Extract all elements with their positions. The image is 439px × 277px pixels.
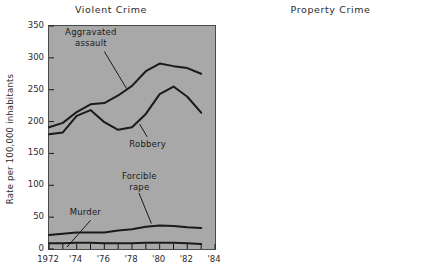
series-label-robbery: Robbery bbox=[129, 139, 166, 150]
y-tick-label: 150 bbox=[4, 147, 44, 157]
figure-root: Violent Crime Rate per 100,000 inhabitan… bbox=[0, 0, 439, 277]
x-tick-label: '76 bbox=[97, 254, 110, 264]
chart-panel-property-crime: Property Crime Rate per 100,000 inhabita… bbox=[222, 0, 439, 277]
data-line-aggravated-assault bbox=[49, 64, 201, 128]
chart-panel-violent-crime: Violent Crime Rate per 100,000 inhabitan… bbox=[0, 0, 222, 277]
y-tick-label: 100 bbox=[4, 179, 44, 189]
x-tick-label: 1972 bbox=[37, 254, 59, 264]
x-tick-label: '84 bbox=[207, 254, 220, 264]
chart-title-property-crime: Property Crime bbox=[222, 4, 439, 15]
data-line-forcible-rape bbox=[49, 225, 201, 235]
y-tick-label: 300 bbox=[4, 52, 44, 62]
x-tick-label: '74 bbox=[69, 254, 82, 264]
series-label-murder: Murder bbox=[70, 206, 101, 217]
x-tick-label: '78 bbox=[124, 254, 137, 264]
series-label-aggravated-assault: Aggravated assault bbox=[65, 27, 117, 49]
leader-line bbox=[140, 124, 148, 137]
leader-line bbox=[139, 193, 151, 224]
y-tick-label: 350 bbox=[4, 20, 44, 30]
data-line-robbery bbox=[49, 87, 201, 135]
y-tick-label: 50 bbox=[4, 211, 44, 221]
y-tick-label: 200 bbox=[4, 116, 44, 126]
y-tick-label: 250 bbox=[4, 84, 44, 94]
chart-title-violent-crime: Violent Crime bbox=[0, 4, 222, 15]
series-label-forcible-rape: Forcible rape bbox=[122, 171, 157, 193]
y-tick-label: 0 bbox=[4, 243, 44, 253]
x-tick-label: '80 bbox=[152, 254, 165, 264]
x-tick-label: '82 bbox=[180, 254, 193, 264]
y-axis-title-violent-crime: Rate per 100,000 inhabitants bbox=[2, 0, 18, 277]
data-line-murder bbox=[49, 243, 201, 244]
leader-line bbox=[104, 51, 126, 88]
